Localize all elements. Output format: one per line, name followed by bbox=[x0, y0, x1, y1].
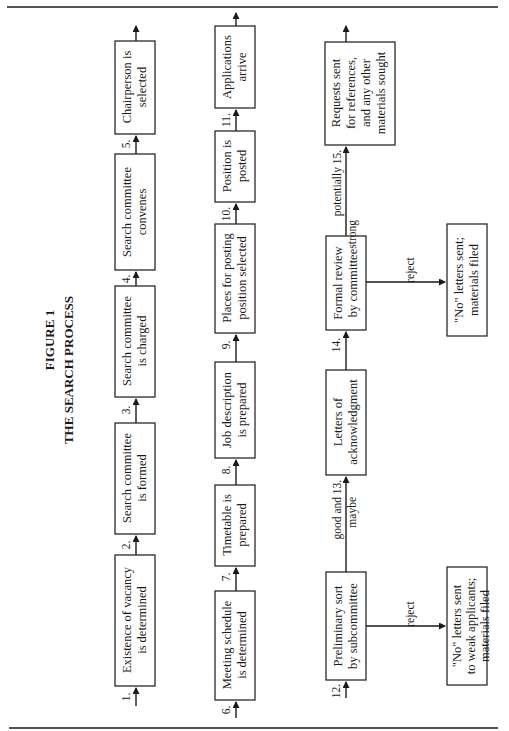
step-number: 4. bbox=[120, 275, 132, 284]
column-2: Meeting schedule is determined 6. Timeta… bbox=[215, 13, 255, 718]
step-number: 11. bbox=[220, 113, 232, 127]
step-text-line: is determined bbox=[235, 610, 249, 678]
step-text-line: is prepared bbox=[235, 382, 249, 438]
figure-title: FIGURE 1 THE SEARCH PROCESS bbox=[42, 296, 76, 444]
step-text-line: Formal review bbox=[331, 246, 345, 319]
step-11: Applications arrive 11. bbox=[215, 26, 255, 127]
step-text-line: arrive bbox=[235, 52, 249, 82]
step-text-line: by committee bbox=[346, 248, 360, 317]
step-text-line: is charged bbox=[135, 315, 149, 367]
step-5: Chairperson is selected 5. bbox=[115, 41, 155, 148]
step-text-line: Search committee bbox=[120, 433, 134, 523]
step-text-line: is formed bbox=[135, 453, 149, 501]
outcome-text-line: materials filed bbox=[478, 589, 492, 662]
step-text-line: Chairperson is bbox=[120, 51, 134, 124]
column-3: Preliminary sort by subcommittee 12. goo… bbox=[325, 26, 492, 698]
step-number: 3. bbox=[120, 406, 132, 415]
step-text-line: Search committee bbox=[120, 167, 134, 257]
step-6: Meeting schedule is determined 6. bbox=[215, 591, 255, 714]
step-text-line: is determined bbox=[135, 585, 149, 653]
edge-label-line: maybe bbox=[346, 497, 359, 528]
step-number: 9. bbox=[220, 341, 232, 350]
step-text-line: Timetable is bbox=[220, 494, 234, 556]
step-number: 7. bbox=[220, 573, 232, 582]
column-1: Existence of vacancy is determined 1. Se… bbox=[115, 26, 155, 706]
step-text-line: Meeting schedule bbox=[220, 600, 234, 689]
step-9: Places for posting position selected 9. bbox=[215, 224, 255, 349]
step-10: Position is posted 10. bbox=[215, 131, 255, 221]
edge-label-line: strong bbox=[346, 220, 359, 249]
edge-label-reject: reject bbox=[404, 600, 417, 626]
step-number: 15. bbox=[331, 150, 343, 165]
step-text-line: Applications bbox=[220, 35, 234, 99]
outcome-text-line: materials filed bbox=[467, 243, 481, 316]
step-text-line: Job description bbox=[220, 371, 234, 448]
outcome-text-line: to weak applicants; bbox=[464, 578, 478, 675]
step-number: 8. bbox=[220, 466, 232, 475]
step-number: 2. bbox=[120, 541, 132, 550]
step-4: Search committee convenes 4. bbox=[115, 154, 155, 283]
step-text-line: selected bbox=[135, 66, 149, 107]
step-number: 14. bbox=[330, 338, 342, 353]
step-3: Search committee is charged 3. bbox=[115, 286, 155, 414]
reject-outcome-14: "No" letters sent; materials filed bbox=[447, 224, 487, 336]
step-1: Existence of vacancy is determined 1. bbox=[115, 555, 155, 701]
step-text-line: and any other bbox=[359, 58, 373, 127]
step-text-line: for references, bbox=[344, 57, 358, 129]
step-text-line: Places for posting bbox=[220, 232, 234, 322]
figure-number: FIGURE 1 bbox=[42, 310, 57, 370]
edge-label-reject: reject bbox=[404, 256, 417, 282]
step-text-line: Requests sent bbox=[329, 58, 343, 127]
step-number: 6. bbox=[220, 706, 232, 715]
step-15: Requests sent for references, and any ot… bbox=[325, 42, 395, 145]
edge-label-potentially-strong: potentially strong 15. bbox=[331, 150, 359, 249]
step-number: 10. bbox=[220, 207, 232, 222]
step-number: 13. bbox=[331, 480, 343, 495]
outcome-text-line: "No" letters sent bbox=[450, 584, 464, 667]
step-text-line: posted bbox=[235, 149, 249, 182]
step-text-line: Existence of vacancy bbox=[120, 566, 134, 673]
step-number: 5. bbox=[120, 140, 132, 149]
step-number: 12. bbox=[330, 684, 342, 699]
step-text-line: prepared bbox=[235, 502, 249, 546]
edge-label-line: potentially bbox=[331, 167, 344, 216]
outcome-text-line: "No" letters sent; bbox=[452, 237, 466, 323]
step-13: Letters of acknowledgment bbox=[326, 370, 366, 475]
step-number: 1. bbox=[120, 693, 132, 702]
search-process-diagram: FIGURE 1 THE SEARCH PROCESS Existence of… bbox=[0, 0, 509, 731]
step-8: Job description is prepared 8. bbox=[215, 362, 255, 474]
step-text-line: position selected bbox=[235, 235, 249, 319]
step-text-line: materials sought bbox=[374, 51, 388, 134]
step-text-line: Preliminary sort bbox=[331, 585, 345, 666]
reject-outcome-12: "No" letters sent to weak applicants; ma… bbox=[447, 567, 492, 685]
step-7: Timetable is prepared 7. bbox=[215, 485, 255, 581]
step-text-line: Search committee bbox=[120, 296, 134, 386]
edge-label-line: good and bbox=[331, 497, 344, 540]
step-2: Search committee is formed 2. bbox=[115, 423, 155, 549]
figure-heading: THE SEARCH PROCESS bbox=[61, 296, 76, 444]
step-text-line: Position is bbox=[220, 140, 234, 193]
step-text-line: Letters of bbox=[331, 397, 345, 446]
step-12: Preliminary sort by subcommittee 12. bbox=[326, 572, 366, 698]
step-text-line: acknowledgment bbox=[346, 379, 360, 465]
step-text-line: by subcommittee bbox=[346, 583, 360, 669]
edge-label-good-maybe: good and maybe 13. bbox=[331, 480, 359, 540]
step-text-line: convenes bbox=[135, 189, 149, 236]
